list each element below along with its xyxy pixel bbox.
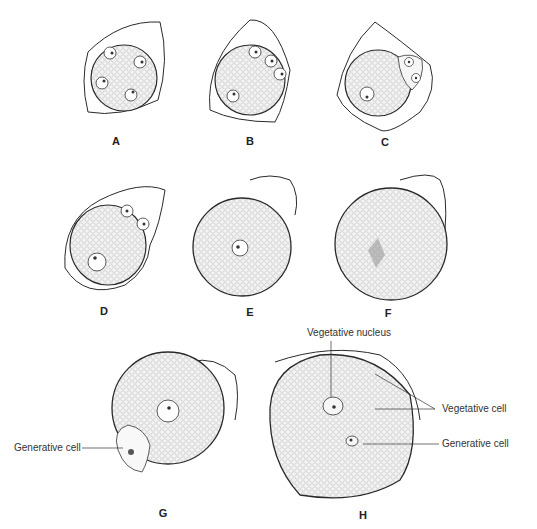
panel-b-drawing <box>210 20 291 122</box>
panel-label-g: G <box>159 507 168 519</box>
panel-label-b: B <box>246 135 254 147</box>
annotation-generative-cell-h: Generative cell <box>442 438 509 449</box>
panel-h-drawing <box>270 341 439 498</box>
panel-label-e: E <box>246 306 253 318</box>
panel-label-d: D <box>100 305 108 317</box>
panel-g-drawing <box>82 352 238 472</box>
panel-f-drawing <box>335 175 447 300</box>
annotation-vegetative-cell: Vegetative cell <box>442 403 507 414</box>
panel-d-drawing <box>65 187 165 290</box>
panel-c-drawing <box>337 22 432 131</box>
panel-label-f: F <box>385 307 392 319</box>
panel-label-h: H <box>359 509 367 521</box>
panel-label-a: A <box>112 135 120 147</box>
panel-label-c: C <box>381 136 389 148</box>
panel-e-drawing <box>193 176 297 296</box>
panel-a-drawing <box>84 22 165 114</box>
annotation-generative-cell-g: Generative cell <box>14 442 81 453</box>
annotation-vegetative-nucleus: Vegetative nucleus <box>307 327 391 338</box>
